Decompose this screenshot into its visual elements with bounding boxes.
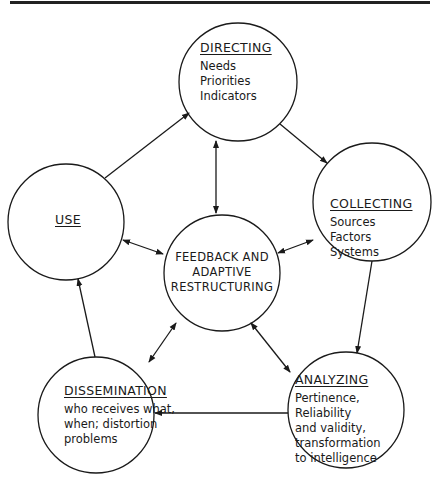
collecting-line: Factors (330, 230, 412, 245)
directing-line: Needs (200, 59, 272, 74)
node-use: USE (55, 212, 81, 231)
collecting-line: Sources (330, 215, 412, 230)
arrow-dissemination-to-use (78, 279, 95, 357)
arrow-center-dissemination (149, 323, 176, 362)
arrow-center-use (123, 240, 163, 254)
analyzing-line: to intelligence (295, 451, 380, 466)
arrow-center-collecting (278, 240, 313, 253)
analyzing-line: transformation (295, 436, 380, 451)
arrow-center-analyzing (251, 323, 290, 372)
use-title: USE (55, 212, 81, 227)
dissemination-line: who receives what, (64, 402, 175, 417)
directing-title: DIRECTING (200, 40, 272, 55)
arrow-collecting-to-analyzing (357, 261, 372, 353)
analyzing-line: Reliability (295, 406, 380, 421)
center-line: RESTRUCTURING (162, 280, 282, 295)
analyzing-line: and validity, (295, 421, 380, 436)
node-feedback-restructuring: FEEDBACK AND ADAPTIVE RESTRUCTURING (162, 250, 282, 295)
dissemination-line: problems (64, 432, 175, 447)
analyzing-line: Pertinence, (295, 391, 380, 406)
arrow-directing-to-collecting (280, 124, 327, 163)
collecting-line: Systems (330, 245, 412, 260)
dissemination-title: DISSEMINATION (64, 383, 175, 398)
collecting-title: COLLECTING (330, 196, 412, 211)
node-collecting: COLLECTING Sources Factors Systems (330, 196, 412, 260)
arrow-use-to-directing (105, 113, 189, 178)
node-dissemination: DISSEMINATION who receives what, when; d… (64, 383, 175, 447)
center-line: FEEDBACK AND (162, 250, 282, 265)
directing-line: Indicators (200, 89, 272, 104)
dissemination-line: when; distortion (64, 417, 175, 432)
directing-line: Priorities (200, 74, 272, 89)
analyzing-title: ANALYZING (295, 372, 380, 387)
node-directing: DIRECTING Needs Priorities Indicators (200, 40, 272, 104)
center-line: ADAPTIVE (162, 265, 282, 280)
node-analyzing: ANALYZING Pertinence, Reliability and va… (295, 372, 380, 466)
